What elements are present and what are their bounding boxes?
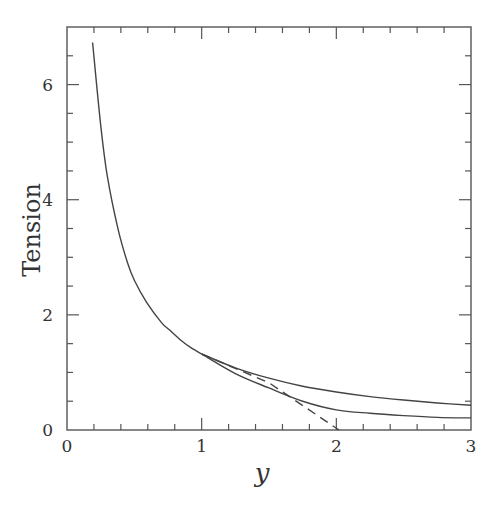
y-tick-label: 6: [42, 75, 53, 95]
y-tick-label: 2: [42, 305, 53, 325]
data-series: [93, 43, 471, 430]
y-axis-title: Tension: [18, 183, 46, 277]
x-tick-label: 0: [62, 436, 73, 456]
x-tick-label: 3: [466, 436, 477, 456]
series-lower-branch: [202, 354, 471, 418]
series-main-branch: [93, 43, 202, 354]
y-tick-label: 0: [42, 420, 53, 440]
plot-frame: [67, 27, 471, 430]
x-axis-title: y: [254, 458, 270, 488]
x-tick-label: 2: [331, 436, 342, 456]
x-tick-label: 1: [196, 436, 207, 456]
tick-labels: 01230246: [42, 75, 476, 456]
plot-border: [67, 27, 471, 430]
line-chart: 01230246 y Tension: [0, 0, 494, 508]
axis-ticks: [67, 27, 471, 430]
series-upper-branch: [202, 354, 471, 405]
series-dashed-line: [202, 354, 339, 430]
